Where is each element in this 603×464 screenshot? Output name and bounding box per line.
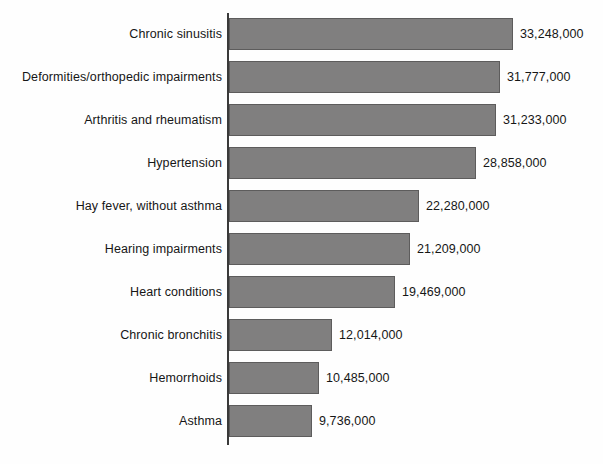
- bar-row: Deformities/orthopedic impairments31,777…: [0, 61, 603, 93]
- category-label: Hemorrhoids: [149, 362, 222, 394]
- category-label: Asthma: [179, 405, 222, 437]
- bar-track: [229, 61, 513, 93]
- bar-row: Chronic sinusitis33,248,000: [0, 18, 603, 50]
- bar-row: Hypertension28,858,000: [0, 147, 603, 179]
- bar: [229, 405, 312, 437]
- category-label: Chronic bronchitis: [120, 319, 222, 351]
- value-label: 21,209,000: [417, 233, 481, 265]
- value-label: 9,736,000: [319, 405, 376, 437]
- value-label: 31,233,000: [503, 104, 567, 136]
- category-label: Hypertension: [147, 147, 222, 179]
- bar: [229, 233, 410, 265]
- value-label: 28,858,000: [483, 147, 547, 179]
- bar: [229, 104, 496, 136]
- bar-row: Hearing impairments21,209,000: [0, 233, 603, 265]
- value-label: 22,280,000: [426, 190, 490, 222]
- value-label: 12,014,000: [339, 319, 403, 351]
- bar: [229, 319, 332, 351]
- bar: [229, 147, 476, 179]
- bar: [229, 276, 395, 308]
- bar: [229, 18, 513, 50]
- bar-row: Heart conditions19,469,000: [0, 276, 603, 308]
- value-label: 33,248,000: [520, 18, 584, 50]
- bar-row: Chronic bronchitis12,014,000: [0, 319, 603, 351]
- category-label: Heart conditions: [130, 276, 222, 308]
- bar-track: [229, 147, 513, 179]
- value-label: 19,469,000: [402, 276, 466, 308]
- category-label: Arthritis and rheumatism: [84, 104, 222, 136]
- bar: [229, 190, 419, 222]
- bar-row: Hay fever, without asthma22,280,000: [0, 190, 603, 222]
- bar-row: Hemorrhoids10,485,000: [0, 362, 603, 394]
- bar-row: Asthma9,736,000: [0, 405, 603, 437]
- bar-track: [229, 276, 513, 308]
- bar-track: [229, 18, 513, 50]
- bar-track: [229, 104, 513, 136]
- category-label: Deformities/orthopedic impairments: [22, 61, 222, 93]
- bar: [229, 362, 319, 394]
- category-label: Hay fever, without asthma: [76, 190, 222, 222]
- bar-row: Arthritis and rheumatism31,233,000: [0, 104, 603, 136]
- bar: [229, 61, 500, 93]
- value-label: 31,777,000: [507, 61, 571, 93]
- value-label: 10,485,000: [326, 362, 390, 394]
- bar-chart: Chronic sinusitis33,248,000Deformities/o…: [0, 0, 603, 464]
- category-label: Hearing impairments: [105, 233, 222, 265]
- category-label: Chronic sinusitis: [129, 18, 222, 50]
